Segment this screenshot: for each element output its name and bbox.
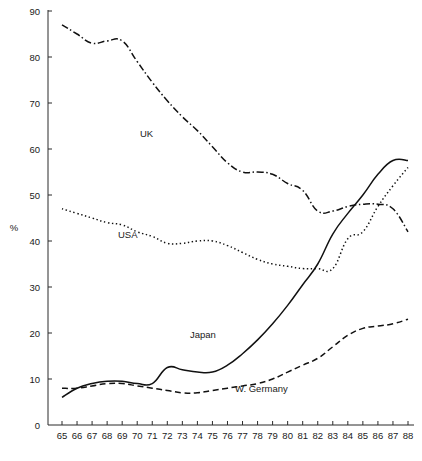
x-tick-label: 68: [102, 430, 113, 441]
series-line-uk: [62, 25, 408, 232]
x-tick-label: 81: [297, 430, 308, 441]
x-tick-label: 77: [237, 430, 248, 441]
series-label-usa: USA: [118, 229, 138, 240]
x-tick-label: 87: [388, 430, 399, 441]
line-chart: 0102030405060708090 65666768697071727374…: [0, 0, 422, 461]
x-tick-label: 67: [87, 430, 98, 441]
y-tick-label: 50: [29, 190, 40, 201]
series-lines: [62, 25, 408, 398]
x-tick-label: 78: [252, 430, 263, 441]
x-tick-label: 75: [207, 430, 218, 441]
chart-canvas: 0102030405060708090 65666768697071727374…: [0, 0, 422, 461]
x-tick-label: 72: [162, 430, 173, 441]
y-tick-label: 70: [29, 98, 40, 109]
series-labels: UKUSAJapanW. Germany: [118, 128, 288, 394]
series-label-w-germany: W. Germany: [235, 383, 288, 394]
y-axis-title: %: [10, 222, 19, 233]
x-tick-label: 66: [72, 430, 83, 441]
x-tick-label: 88: [403, 430, 414, 441]
x-tick-label: 69: [117, 430, 128, 441]
x-tick-label: 85: [358, 430, 369, 441]
x-tick-label: 65: [57, 430, 68, 441]
x-tick-label: 82: [312, 430, 323, 441]
x-tick-label: 84: [343, 430, 354, 441]
series-label-japan: Japan: [190, 329, 216, 340]
series-label-uk: UK: [140, 128, 154, 139]
y-tick-label: 90: [29, 6, 40, 17]
y-tick-label: 10: [29, 374, 40, 385]
y-tick-label: 30: [29, 282, 40, 293]
x-axis: 6566676869707172737475767778798081828384…: [48, 421, 414, 441]
x-tick-label: 76: [222, 430, 233, 441]
x-tick-label: 80: [282, 430, 293, 441]
y-axis: 0102030405060708090: [29, 6, 52, 431]
series-line-japan: [62, 159, 408, 397]
x-tick-label: 73: [177, 430, 188, 441]
x-tick-label: 79: [267, 430, 278, 441]
y-tick-label: 80: [29, 52, 40, 63]
y-tick-label: 20: [29, 328, 40, 339]
x-tick-label: 74: [192, 430, 203, 441]
y-tick-label: 60: [29, 144, 40, 155]
y-tick-label: 40: [29, 236, 40, 247]
series-line-usa: [62, 167, 408, 271]
x-tick-label: 71: [147, 430, 158, 441]
x-tick-label: 83: [327, 430, 338, 441]
x-tick-label: 86: [373, 430, 384, 441]
y-tick-label: 0: [35, 420, 40, 431]
x-tick-label: 70: [132, 430, 143, 441]
